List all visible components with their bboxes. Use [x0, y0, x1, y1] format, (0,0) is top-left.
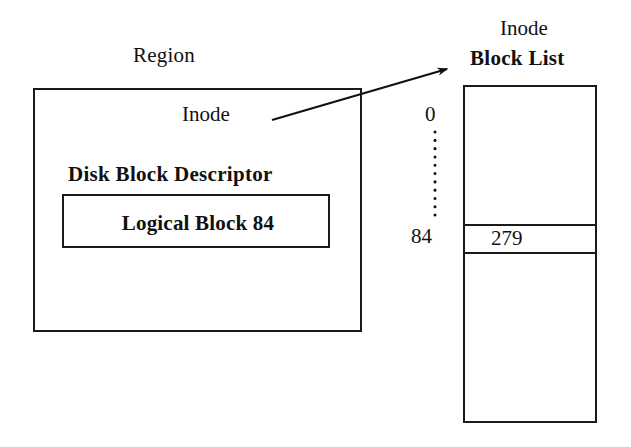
diagram-canvas: Region Inode Disk Block Descriptor Logic…	[0, 0, 631, 447]
block-list-entry-value: 279	[491, 228, 523, 249]
region-title: Region	[133, 45, 195, 66]
disk-block-descriptor-title: Disk Block Descriptor	[68, 164, 273, 185]
inode-label: Inode	[182, 104, 230, 125]
inode-block-list-box	[463, 85, 597, 423]
inode-block-list-title-line2: Block List	[470, 48, 565, 69]
block-list-entry-row: 279	[463, 224, 597, 254]
index-label-highlight: 84	[411, 226, 432, 247]
disk-block-descriptor-box: Logical Block 84	[62, 194, 330, 248]
index-label-start: 0	[425, 104, 436, 125]
index-dotted-connector-icon	[430, 130, 440, 224]
inode-block-list-title-line1: Inode	[500, 18, 548, 39]
logical-block-entry: Logical Block 84	[64, 196, 332, 250]
